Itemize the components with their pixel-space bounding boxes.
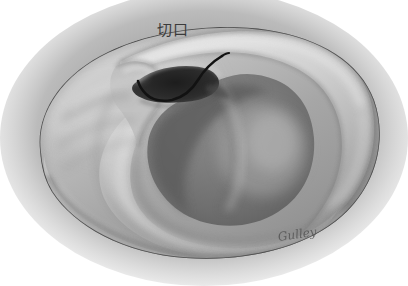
ear-anatomy-drawing <box>0 0 408 286</box>
incision-label: 切口 <box>157 22 189 39</box>
concha-floor-highlight-core <box>246 112 298 172</box>
ear-incision-illustration: 切口 Gulley <box>0 0 408 286</box>
